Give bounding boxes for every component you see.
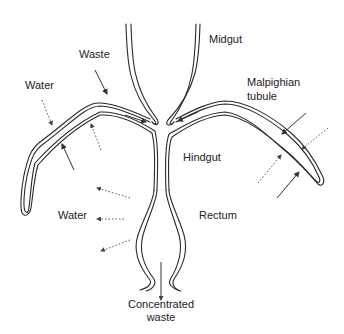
label-waste: Waste	[79, 48, 110, 60]
excretory-system-diagram: Midgut Waste Water Malpighian tubule Hin…	[0, 0, 344, 334]
water-in-arrow-right	[302, 128, 328, 149]
waste-in-arrow-right	[282, 113, 306, 134]
rectum-water-arrow-3	[101, 240, 130, 251]
label-water-lower: Water	[58, 209, 87, 221]
water-in-arrow-left	[42, 100, 52, 125]
solute-in-arrow-right	[277, 172, 299, 198]
label-concentrated-line1: Concentrated	[128, 298, 194, 310]
left-malpighian-tubule	[21, 103, 158, 215]
label-concentrated-line2: waste	[146, 311, 176, 323]
solute-in-arrow-left	[62, 144, 74, 170]
label-rectum: Rectum	[199, 209, 237, 221]
right-malpighian-tubule	[165, 101, 323, 190]
water-out-arrow-left	[91, 124, 101, 150]
water-out-arrow-right	[258, 155, 281, 183]
label-midgut: Midgut	[209, 33, 242, 45]
rectum-water-arrow-1	[97, 188, 130, 198]
waste-in-arrow	[95, 70, 107, 94]
label-malpighian-line2: tubule	[247, 90, 277, 102]
label-hindgut: Hindgut	[183, 151, 221, 163]
label-malpighian-line1: Malpighian	[247, 76, 300, 88]
label-water-upper: Water	[25, 79, 54, 91]
midgut-tube	[126, 24, 200, 125]
